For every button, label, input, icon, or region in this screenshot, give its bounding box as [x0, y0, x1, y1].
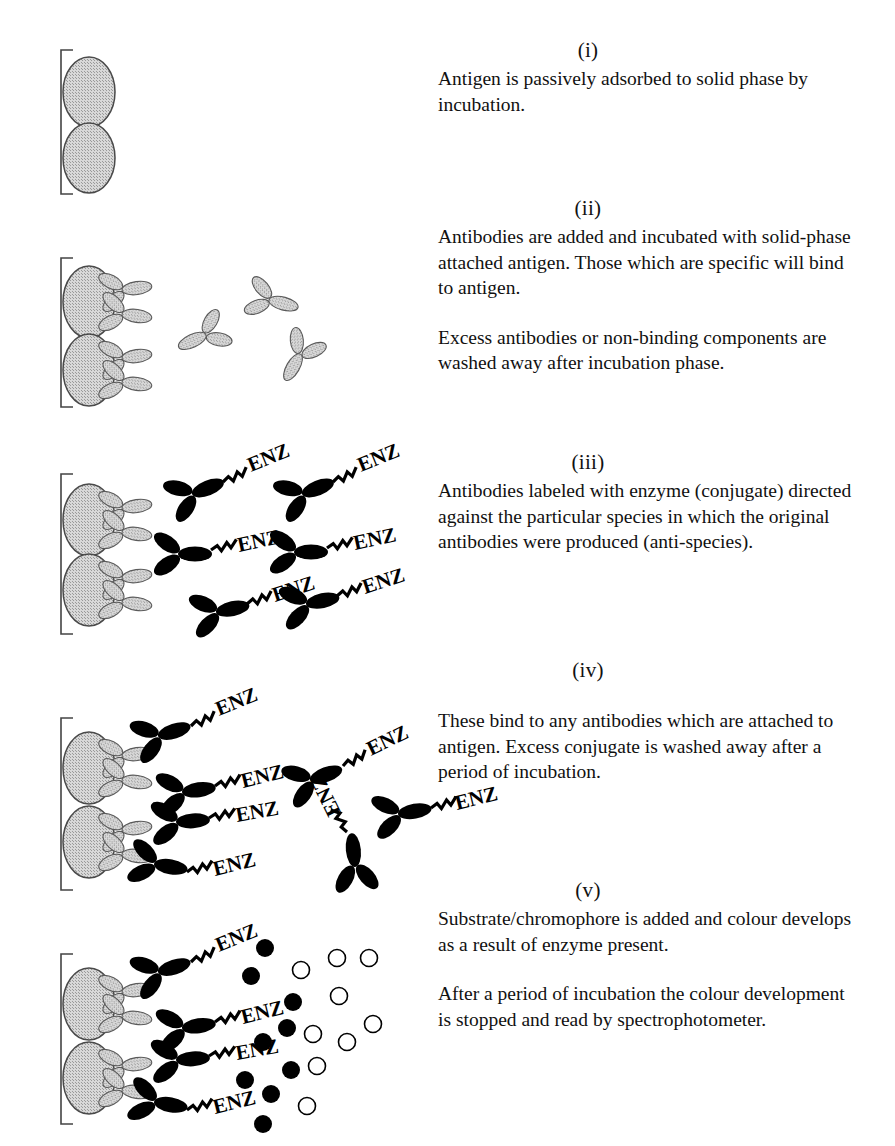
step-text-5: (v) Substrate/chromophore is added and c… — [438, 878, 868, 1032]
step-paragraph: These bind to any antibodies which are a… — [438, 708, 854, 785]
antigen-group — [63, 968, 115, 1114]
step-roman-4: (iv) — [438, 658, 738, 682]
conjugate-bound-1: ENZ — [124, 682, 261, 769]
enzyme-label: ENZ — [244, 438, 293, 476]
enzyme-label: ENZ — [351, 522, 398, 554]
conjugate-free-3: ENZ — [366, 781, 500, 844]
enzyme-label: ENZ — [452, 781, 500, 815]
antigen-group — [63, 732, 115, 878]
step-paragraph: Antigen is passively adsorbed to solid p… — [438, 66, 854, 117]
enzyme-label: ENZ — [354, 438, 403, 476]
panel-diagram-step-3: ENZ ENZ ENZ ENZ ENZ — [55, 462, 415, 642]
step-text-2: (ii) Antibodies are added and incubated … — [438, 196, 868, 376]
free-antibody-group — [169, 271, 332, 391]
step-roman-1: (i) — [438, 38, 738, 62]
elisa-diagram-figure: ENZ ENZ ENZ ENZ ENZ — [0, 0, 895, 1146]
conjugate-free-1: ENZ — [275, 720, 412, 814]
enzyme-label: ENZ — [212, 682, 261, 720]
enzyme-label: ENZ — [363, 720, 412, 761]
step-paragraph: Excess antibodies or non-binding compone… — [438, 325, 854, 376]
conjugate-free-2: ENZ — [150, 524, 282, 579]
substrate-open-group — [293, 950, 382, 1115]
panel-diagram-step-5: ENZ ENZ ENZ ENZ — [55, 918, 455, 1144]
antigen-group — [63, 57, 115, 193]
step-paragraph: Substrate/chromophore is added and colou… — [438, 906, 854, 957]
conjugate-free-3: ENZ — [184, 571, 318, 644]
enzyme-label: ENZ — [210, 1085, 258, 1119]
step-roman-3: (iii) — [438, 450, 738, 474]
conjugate-bound-4: ENZ — [122, 834, 258, 895]
panel-diagram-step-1 — [55, 42, 385, 202]
panel-diagram-step-4: ENZ ENZ ENZ ENZ ENZ — [55, 700, 455, 900]
bound-antibody-group — [95, 481, 155, 628]
enzyme-label: ENZ — [238, 995, 286, 1029]
step-paragraph: Antibodies are added and incubated with … — [438, 224, 854, 301]
panel-diagram-step-2 — [55, 250, 385, 415]
conjugate-free-6: ENZ — [274, 563, 408, 636]
enzyme-label: ENZ — [359, 563, 407, 599]
enzyme-label: ENZ — [210, 847, 258, 881]
step-paragraph: Antibodies labeled with enzyme (conjugat… — [438, 478, 854, 555]
conjugate-bound-1: ENZ — [124, 918, 261, 1005]
enzyme-label: ENZ — [238, 759, 286, 793]
bound-antibody-group — [95, 263, 155, 408]
step-text-4: (iv) These bind to any antibodies which … — [438, 658, 868, 785]
step-text-3: (iii) Antibodies labeled with enzyme (co… — [438, 450, 868, 555]
conjugate-free-1: ENZ — [157, 438, 293, 528]
step-roman-5: (v) — [438, 878, 738, 902]
conjugate-free-2: ENZ — [305, 771, 384, 897]
step-roman-2: (ii) — [438, 196, 738, 220]
enzyme-label: ENZ — [234, 796, 281, 827]
step-paragraph: After a period of incubation the colour … — [438, 981, 854, 1032]
step-text-1: (i) Antigen is passively adsorbed to sol… — [438, 38, 868, 117]
enzyme-label: ENZ — [212, 918, 261, 956]
